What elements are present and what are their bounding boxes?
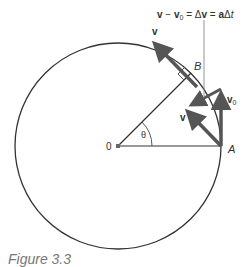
delta-v-vector (195, 89, 221, 103)
label-v-at-B: v (152, 26, 158, 37)
radius-to-B (118, 73, 191, 146)
label-point-B: B (194, 60, 201, 72)
center-point (116, 144, 120, 148)
label-point-A: A (227, 143, 235, 155)
velocity-v-at-A (191, 115, 221, 146)
label-theta: θ (141, 130, 146, 140)
label-center: 0 (106, 141, 112, 152)
label-v-at-A: v (180, 112, 186, 123)
label-v0: v0 (227, 94, 237, 106)
figure-caption: Figure 3.3 (8, 251, 71, 267)
velocity-vector-at-B (158, 47, 197, 87)
equation-label: v − v0 = Δv = aΔt (157, 9, 235, 21)
